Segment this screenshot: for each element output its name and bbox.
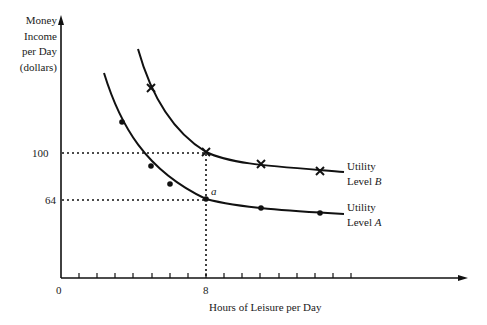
utility-a-label: Utility Level A	[347, 200, 382, 230]
level-prefix: Level	[347, 175, 375, 187]
level-letter: A	[375, 216, 382, 228]
chart-canvas	[0, 0, 487, 325]
utility-b-label: Utility Level B	[347, 159, 382, 189]
reference-lines	[62, 153, 206, 277]
y-label-line: per Day	[20, 44, 57, 60]
y-label-line: Money	[20, 13, 57, 29]
y-axis-arrow-icon	[58, 15, 64, 25]
utility-a-label-line1: Utility	[347, 200, 382, 215]
x-axis-label: Hours of Leisure per Day	[209, 300, 321, 314]
dot-marker-icon	[148, 163, 154, 169]
y-tick-label-100: 100	[32, 146, 49, 160]
utility-curve-a	[104, 73, 344, 214]
utility-b-label-line2: Level B	[347, 174, 382, 189]
dot-marker-icon	[167, 181, 173, 187]
y-label-line: (dollars)	[20, 60, 57, 76]
level-prefix: Level	[347, 216, 375, 228]
x-axis-arrow-icon	[458, 275, 468, 281]
y-label-line: Income	[20, 29, 57, 45]
x-tick-label-8: 8	[203, 283, 209, 297]
dot-marker-icon	[258, 205, 264, 211]
dot-marker-icon	[203, 196, 209, 202]
x-tick-label-0: 0	[56, 283, 62, 297]
y-tick-label-64: 64	[45, 193, 56, 207]
level-letter: B	[375, 175, 382, 187]
dot-marker-icon	[119, 119, 125, 125]
dot-marker-icon	[317, 210, 323, 216]
point-a-annotation: a	[211, 184, 217, 198]
utility-b-label-line1: Utility	[347, 159, 382, 174]
utility-a-label-line2: Level A	[347, 215, 382, 230]
y-axis-label: Money Income per Day (dollars)	[20, 13, 57, 75]
